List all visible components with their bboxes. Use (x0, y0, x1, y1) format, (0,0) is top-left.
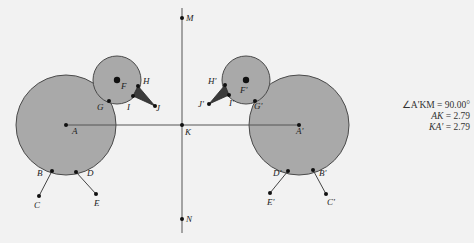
point-C[interactable] (37, 194, 41, 198)
label-D-prime: D' (272, 168, 282, 178)
label-N: N (185, 214, 193, 224)
label-H-prime: H' (207, 76, 217, 86)
measurement-AK[interactable]: AK = 2.79 (382, 111, 470, 122)
measurement-label: ∠A'KM (402, 100, 435, 110)
point-I-prime[interactable] (227, 93, 231, 97)
label-B: B (37, 168, 43, 178)
point-A[interactable] (64, 123, 68, 127)
point-N[interactable] (180, 217, 184, 221)
label-F-prime: F' (239, 85, 248, 95)
point-M[interactable] (180, 16, 184, 20)
beak-H-I-J-prime[interactable] (209, 85, 229, 104)
point-D-prime[interactable] (286, 169, 290, 173)
label-B-prime: B' (319, 168, 327, 178)
point-F[interactable] (114, 77, 120, 83)
point-H[interactable] (136, 84, 140, 88)
point-B-prime[interactable] (311, 168, 315, 172)
label-G: G (97, 102, 104, 112)
label-E: E (93, 198, 100, 208)
measurement-value: 2.79 (453, 111, 470, 121)
label-J-prime: J' (198, 99, 205, 109)
point-K[interactable] (180, 123, 184, 127)
measurement-value: 90.00° (445, 100, 470, 110)
point-C-prime[interactable] (324, 192, 328, 196)
label-F: F (120, 81, 127, 91)
label-C: C (34, 200, 41, 210)
point-J-prime[interactable] (207, 102, 211, 106)
point-G[interactable] (107, 99, 111, 103)
beak-HIJ[interactable] (133, 86, 155, 106)
point-E[interactable] (94, 192, 98, 196)
label-J: J (156, 103, 161, 113)
label-A: A (71, 126, 78, 136)
label-D: D (86, 168, 94, 178)
measurement-KA-prime[interactable]: KA' = 2.79 (382, 122, 470, 133)
label-H: H (142, 76, 150, 86)
label-K: K (184, 127, 192, 137)
label-A-prime: A' (295, 126, 304, 136)
measurements-panel: ∠A'KM = 90.00° AK = 2.79 KA' = 2.79 (382, 100, 470, 133)
point-F-prime[interactable] (243, 77, 249, 83)
label-I: I (126, 102, 131, 112)
measurement-label: KA' (429, 122, 443, 132)
measurement-label: AK (431, 111, 443, 121)
label-E-prime: E' (266, 197, 275, 207)
point-E-prime[interactable] (268, 191, 272, 195)
point-I[interactable] (131, 94, 135, 98)
point-H-prime[interactable] (223, 83, 227, 87)
label-G-prime: G' (254, 101, 263, 111)
point-B[interactable] (50, 169, 54, 173)
label-M: M (185, 13, 194, 23)
point-D[interactable] (74, 170, 78, 174)
measurement-value: 2.79 (453, 122, 470, 132)
label-C-prime: C' (327, 197, 336, 207)
measurement-angle[interactable]: ∠A'KM = 90.00° (382, 100, 470, 111)
